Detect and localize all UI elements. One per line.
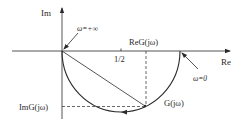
omega-zero-label: ω=0 [193, 74, 207, 83]
direction-arrow-icon [121, 110, 127, 115]
g-point-label: G(jω) [164, 98, 184, 108]
nyquist-diagram: Im Re 1/2 ω=+∞ ω=0 ReG(jω) ImG(jω) G(jω) [0, 0, 245, 134]
re-g-label: ReG(jω) [129, 37, 158, 47]
g-vector [62, 51, 145, 106]
omega-inf-pointer [64, 33, 78, 49]
imag-axis-label: Im [41, 8, 51, 18]
omega-inf-label: ω=+∞ [77, 24, 98, 33]
im-g-label: ImG(jω) [19, 102, 48, 112]
omega-zero-pointer [182, 53, 198, 69]
real-axis-label: Re [221, 57, 231, 67]
half-tick-label: 1/2 [114, 54, 125, 64]
